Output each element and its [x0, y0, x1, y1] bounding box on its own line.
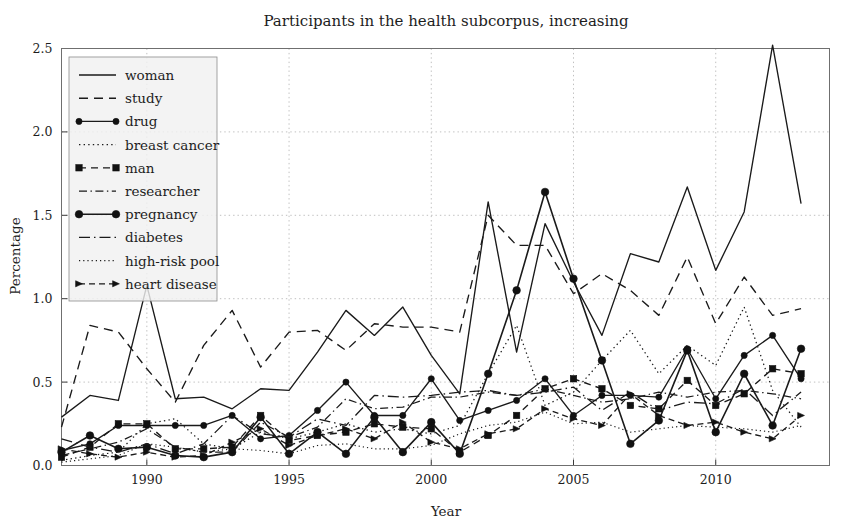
data-point-marker	[627, 402, 633, 408]
data-point-marker	[485, 407, 491, 413]
data-point-marker	[712, 419, 719, 425]
data-point-marker	[342, 450, 350, 458]
data-point-marker	[76, 118, 82, 124]
data-point-marker	[371, 413, 379, 421]
y-axis-ticks: 0.00.51.01.52.02.5	[33, 41, 68, 473]
data-point-marker	[741, 352, 747, 358]
y-tick-label: 2.0	[33, 124, 53, 139]
data-point-marker	[115, 445, 123, 453]
data-point-marker	[112, 210, 120, 218]
data-point-marker	[201, 422, 207, 428]
data-point-marker	[457, 417, 463, 423]
legend-label-breast-cancer: breast cancer	[125, 137, 220, 153]
data-point-marker	[683, 347, 691, 355]
data-point-marker	[76, 165, 82, 171]
chart-legend: womanstudydrugbreast cancermanresearcher…	[69, 57, 220, 301]
data-point-marker	[599, 386, 605, 392]
x-tick-label: 2005	[558, 472, 590, 487]
data-point-marker	[713, 396, 719, 402]
data-point-marker	[570, 275, 578, 283]
data-point-marker	[428, 376, 434, 382]
data-point-marker	[741, 429, 748, 435]
data-point-marker	[371, 421, 377, 427]
data-point-marker	[798, 371, 804, 377]
data-point-marker	[314, 407, 320, 413]
data-point-marker	[201, 446, 207, 452]
y-axis-label: Percentage	[7, 217, 23, 294]
data-point-marker	[484, 370, 492, 378]
legend-label-woman: woman	[125, 67, 175, 83]
data-point-marker	[427, 418, 435, 426]
data-point-marker	[513, 287, 521, 295]
x-tick-label: 2010	[700, 472, 732, 487]
data-point-marker	[75, 210, 83, 218]
data-point-marker	[513, 412, 519, 418]
legend-label-study: study	[125, 90, 163, 106]
data-point-marker	[627, 440, 635, 448]
legend-label-man: man	[125, 160, 155, 176]
chart-figure: Participants in the health subcorpus, in…	[0, 0, 847, 523]
x-axis-ticks: 19901995200020052010	[131, 460, 732, 487]
data-point-marker	[428, 426, 434, 432]
data-point-marker	[541, 188, 549, 196]
legend-label-pregnancy: pregnancy	[125, 206, 198, 222]
data-point-marker	[599, 392, 605, 398]
legend-label-diabetes: diabetes	[125, 229, 183, 245]
data-point-marker	[257, 413, 265, 421]
data-point-marker	[257, 426, 264, 432]
x-tick-label: 2000	[415, 472, 447, 487]
data-point-marker	[115, 421, 121, 427]
data-point-marker	[542, 376, 548, 382]
y-tick-label: 1.0	[33, 291, 53, 306]
y-tick-label: 2.5	[33, 41, 53, 56]
data-point-marker	[113, 165, 119, 171]
data-point-marker	[598, 357, 606, 365]
data-point-marker	[769, 422, 777, 430]
legend-label-heart-disease: heart disease	[125, 276, 217, 292]
data-point-marker	[542, 406, 549, 412]
x-tick-label: 1990	[131, 472, 163, 487]
y-tick-label: 0.0	[33, 458, 53, 473]
line-chart-svg: Participants in the health subcorpus, in…	[0, 0, 847, 523]
data-point-marker	[113, 118, 119, 124]
data-point-marker	[740, 370, 748, 378]
y-tick-label: 1.5	[33, 208, 53, 223]
x-axis-label: Year	[430, 503, 462, 519]
data-point-marker	[144, 421, 150, 427]
data-point-marker	[514, 397, 520, 403]
data-point-marker	[712, 428, 720, 436]
y-tick-label: 0.5	[33, 375, 53, 390]
data-point-marker	[258, 436, 264, 442]
data-point-marker	[769, 366, 775, 372]
data-point-marker	[770, 332, 776, 338]
legend-label-high-risk-pool: high-risk pool	[125, 253, 219, 269]
data-point-marker	[86, 432, 94, 440]
data-point-marker	[172, 422, 178, 428]
data-point-marker	[656, 394, 662, 400]
legend-label-researcher: researcher	[125, 183, 200, 199]
chart-title: Participants in the health subcorpus, in…	[263, 12, 629, 30]
x-tick-label: 1995	[273, 472, 305, 487]
data-point-marker	[798, 412, 805, 418]
data-point-marker	[399, 448, 407, 456]
data-point-marker	[684, 377, 690, 383]
data-point-marker	[684, 422, 691, 428]
legend-label-drug: drug	[125, 113, 158, 129]
data-point-marker	[797, 345, 805, 353]
data-point-marker	[343, 379, 349, 385]
data-point-marker	[570, 376, 576, 382]
data-point-marker	[400, 412, 406, 418]
